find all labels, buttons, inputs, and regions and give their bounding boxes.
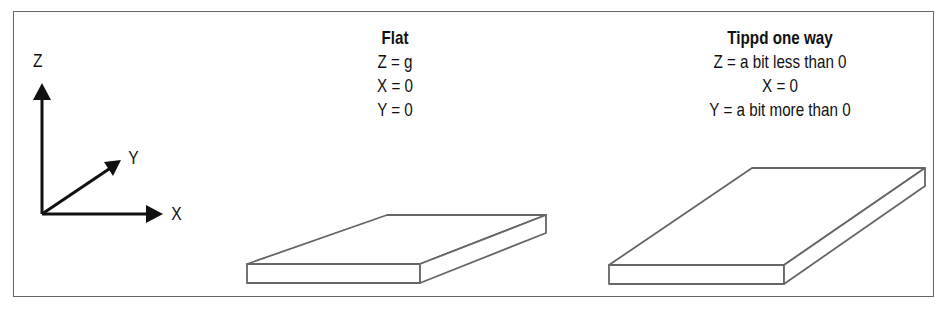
flat-panel-text: Flat Z = g X = 0 Y = 0 (290, 26, 500, 122)
tipped-panel-text: Tippd one way Z = a bit less than 0 X = … (640, 26, 920, 122)
flat-slab-icon (247, 215, 546, 283)
z-axis-label: Z (33, 50, 43, 72)
tipped-title: Tippd one way (668, 26, 892, 50)
x-axis-label: X (171, 203, 181, 225)
y-axis-arrow (42, 167, 112, 214)
flat-y-value: Y = 0 (311, 98, 479, 122)
flat-x-value: X = 0 (311, 74, 479, 98)
flat-title: Flat (311, 26, 479, 50)
tipped-slab-icon (609, 168, 925, 284)
tipped-y-value: Y = a bit more than 0 (668, 98, 892, 122)
tipped-x-value: X = 0 (668, 74, 892, 98)
y-axis-label: Y (128, 147, 138, 169)
flat-z-value: Z = g (311, 50, 479, 74)
tipped-z-value: Z = a bit less than 0 (668, 50, 892, 74)
axes-icon (33, 83, 163, 223)
